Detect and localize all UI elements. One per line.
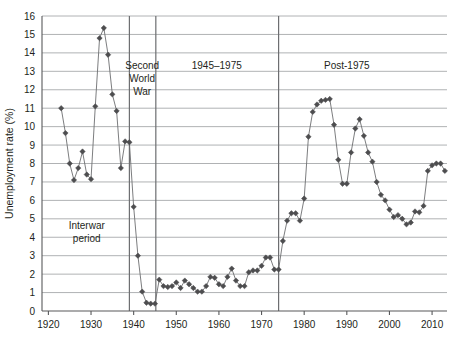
y-tick-label-13: 13	[24, 66, 36, 77]
x-tick-label-1940: 1940	[123, 319, 146, 330]
x-tick-label-1920: 1920	[37, 319, 60, 330]
y-tick-label-0: 0	[29, 306, 35, 317]
annotation-line: Interwar	[69, 220, 106, 231]
x-tick-label-1970: 1970	[250, 319, 273, 330]
x-tick-label-1960: 1960	[208, 319, 231, 330]
y-tick-label-12: 12	[24, 84, 36, 95]
x-tick-label-1990: 1990	[336, 319, 359, 330]
x-tick-label-1930: 1930	[80, 319, 103, 330]
y-tick-label-11: 11	[25, 103, 36, 114]
y-tick-label-6: 6	[29, 195, 35, 206]
y-tick-label-1: 1	[29, 287, 35, 298]
annotation-period-1945-1975: 1945–1975	[192, 60, 242, 71]
annotation-line: World	[129, 73, 155, 84]
y-axis-title: Unemployment rate (%)	[3, 108, 15, 219]
y-tick-label-14: 14	[24, 47, 36, 58]
annotation-line: Second	[125, 60, 159, 71]
y-tick-label-9: 9	[29, 140, 35, 151]
annotation-post-1975: Post-1975	[324, 60, 370, 71]
chart-canvas: 012345678910111213141516 192019301940195…	[0, 0, 456, 342]
y-tick-label-16: 16	[24, 11, 36, 22]
x-tick-label-1980: 1980	[293, 319, 316, 330]
y-tick-label-15: 15	[24, 29, 36, 40]
y-tick-label-7: 7	[29, 176, 35, 187]
y-tick-label-4: 4	[29, 232, 35, 243]
chart-background	[0, 0, 456, 342]
y-tick-label-5: 5	[29, 213, 35, 224]
annotation-line: period	[73, 233, 101, 244]
y-axis-title-text: Unemployment rate (%)	[3, 108, 15, 219]
unemployment-rate-chart: 012345678910111213141516 192019301940195…	[0, 0, 456, 342]
y-tick-label-2: 2	[29, 269, 35, 280]
annotation-line: 1945–1975	[192, 60, 242, 71]
annotation-line: War	[133, 86, 152, 97]
annotation-line: Post-1975	[324, 60, 370, 71]
y-tick-label-3: 3	[29, 250, 35, 261]
y-tick-label-8: 8	[29, 158, 35, 169]
x-tick-label-2010: 2010	[421, 319, 444, 330]
x-tick-label-1950: 1950	[165, 319, 188, 330]
x-tick-label-2000: 2000	[378, 319, 401, 330]
y-tick-label-10: 10	[24, 121, 36, 132]
